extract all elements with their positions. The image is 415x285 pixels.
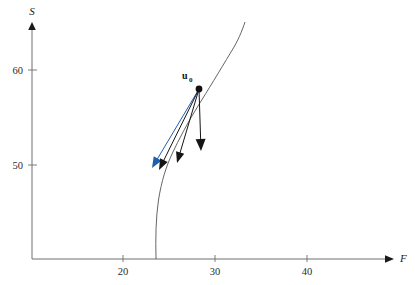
- vector-blue-shaft: [157, 89, 199, 160]
- y-axis-arrowhead: [28, 22, 36, 30]
- vector-black-vertical-shaft: [199, 89, 201, 141]
- phase-plane-figure: S F 20 30 40 50 60 u 0: [0, 0, 415, 285]
- y-axis-label: S: [29, 5, 35, 17]
- y-tick-label-60: 60: [13, 65, 24, 76]
- y-tick-label-50: 50: [13, 160, 24, 171]
- u0-label-main: u: [182, 70, 188, 81]
- vector-black-vertical-arrowhead: [196, 139, 206, 151]
- x-tick-label-40: 40: [302, 266, 313, 277]
- vector-black-mid: [176, 89, 199, 163]
- x-tick-label-30: 30: [210, 266, 221, 277]
- u0-label: u 0: [182, 70, 193, 84]
- vector-blue: [152, 89, 199, 168]
- x-axis-arrowhead: [385, 255, 394, 263]
- u0-label-subscript: 0: [189, 76, 193, 84]
- vector-group: [152, 89, 206, 170]
- x-tick-label-20: 20: [118, 266, 129, 277]
- u0-point-marker: [196, 86, 203, 93]
- x-axis-ticks: 20 30 40: [118, 255, 313, 277]
- x-axis-label: F: [399, 252, 407, 264]
- vector-black-mid-arrowhead: [176, 151, 184, 163]
- y-axis-ticks: 50 60: [13, 65, 38, 171]
- vector-black-vertical: [196, 89, 206, 151]
